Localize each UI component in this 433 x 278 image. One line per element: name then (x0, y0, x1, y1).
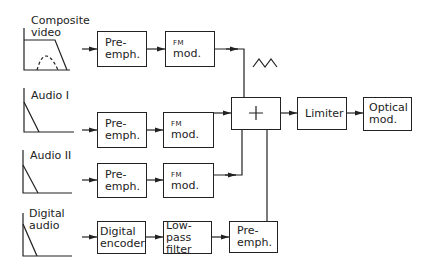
limiter-block: Limiter (297, 97, 347, 130)
plus-sign-icon (0, 0, 433, 278)
optical-mod-block: Opticalmod. (363, 97, 412, 131)
